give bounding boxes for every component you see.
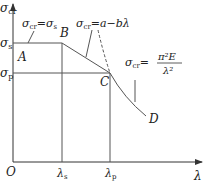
point-B-label: B: [59, 26, 69, 40]
point-A-label: A: [17, 50, 27, 64]
yield-pointer-line: [28, 31, 34, 43]
lambda-p-label: λp: [104, 167, 117, 181]
lambda-s-label: λs: [56, 167, 68, 181]
y-axis-label: σcr: [0, 1, 17, 16]
euler-formula-lhs: σcr=: [125, 56, 149, 70]
linear-formula: σcr=a−bλ: [76, 17, 130, 31]
x-axis-label: λ: [193, 169, 202, 183]
euler-formula-denominator: λ²: [162, 65, 173, 76]
yield-formula: σcr=σs: [22, 17, 58, 31]
euler-formula-numerator: π²E: [157, 51, 177, 62]
euler-curve-CD: [110, 73, 146, 116]
origin-label: O: [6, 165, 16, 179]
sigma-p-label: σp: [0, 66, 13, 81]
sigma-s-label: σs: [0, 36, 12, 51]
linear-pointer-line: [86, 30, 92, 57]
critical-stress-diagram: σcr λ O σs σp λs λp A B C D σcr=σs σcr=a…: [0, 0, 204, 187]
linear-line-BC: [62, 43, 110, 73]
point-D-label: D: [148, 112, 159, 126]
point-C-label: C: [100, 75, 109, 89]
